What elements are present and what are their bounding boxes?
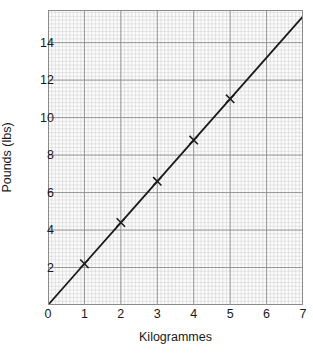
- y-tick-label: 6: [47, 186, 54, 199]
- data-series-layer: [48, 10, 303, 305]
- y-tick-label: 14: [40, 36, 54, 49]
- x-tick-label: 1: [81, 308, 88, 321]
- y-tick-label: 12: [40, 74, 54, 87]
- y-tick-label: 4: [47, 224, 54, 237]
- x-tick-label: 5: [227, 308, 234, 321]
- x-tick-label: 6: [263, 308, 270, 321]
- x-tick-label: 4: [190, 308, 197, 321]
- y-tick-label: 8: [47, 149, 54, 162]
- conversion-chart: 01234567 2468101214 Kilogrammes Pounds (…: [0, 0, 313, 353]
- y-tick-label: 2: [47, 261, 54, 274]
- x-tick-label: 7: [300, 308, 307, 321]
- plot-area: [48, 10, 303, 305]
- x-tick-label: 2: [117, 308, 124, 321]
- x-tick-label: 0: [45, 308, 52, 321]
- x-tick-label: 3: [154, 308, 161, 321]
- y-tick-label: 10: [40, 111, 54, 124]
- y-axis-title: Pounds (lbs): [0, 10, 16, 305]
- x-axis-title: Kilogrammes: [48, 330, 303, 344]
